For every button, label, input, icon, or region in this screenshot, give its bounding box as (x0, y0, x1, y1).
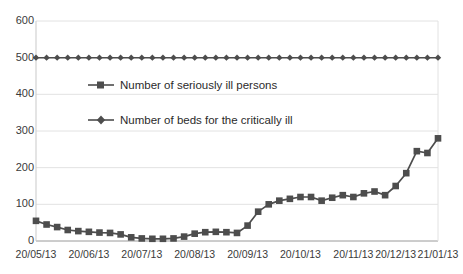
series-beds-line (33, 54, 441, 60)
y-tick-label: 200 (0, 162, 34, 173)
y-tick-label: 500 (0, 52, 34, 63)
y-tick-label: 300 (0, 125, 34, 136)
y-tick-label: 600 (0, 15, 34, 26)
series-seriously-ill-line (33, 135, 442, 242)
legend-item-beds: Number of beds for the critically ill (88, 114, 293, 126)
y-tick-label: 400 (0, 88, 34, 99)
legend-label-seriously-ill: Number of seriously ill persons (120, 79, 277, 91)
gridlines (36, 21, 438, 241)
legend-item-seriously-ill: Number of seriously ill persons (88, 79, 277, 91)
legend-label-beds: Number of beds for the critically ill (120, 114, 293, 126)
legend-key-diamond-icon (88, 114, 114, 126)
legend-key-square-icon (88, 79, 114, 91)
y-tick-label: 0 (0, 235, 34, 246)
x-tick-label: 21/01/13 (407, 249, 463, 260)
y-tick-label: 100 (0, 198, 34, 209)
